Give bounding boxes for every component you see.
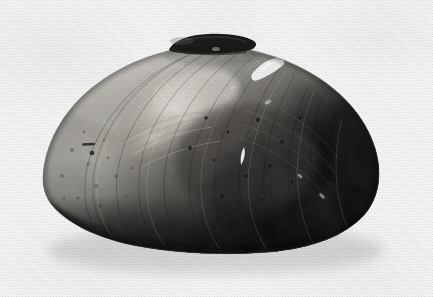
- hinge-shadow: [164, 46, 260, 66]
- photograph: [0, 0, 433, 297]
- mussel-shell-specimen: [0, 0, 433, 297]
